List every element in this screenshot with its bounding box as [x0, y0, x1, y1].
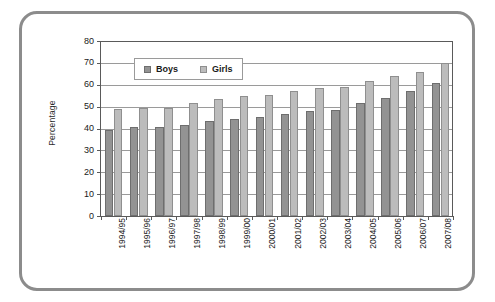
bar-chart: Percentage 01020304050607080 1994/951995…	[22, 14, 478, 294]
chart-legend: Boys Girls	[134, 58, 243, 80]
bar-boys	[130, 127, 139, 216]
bar-boys	[331, 110, 340, 216]
bar-boys	[180, 125, 189, 216]
bar-girls	[390, 76, 399, 216]
x-tick-label: 2000/01	[267, 218, 277, 278]
y-tick-label: 10	[72, 190, 94, 199]
plot-right-edge	[452, 41, 453, 216]
bar-boys	[406, 91, 415, 216]
x-tick-label: 2007/08	[443, 218, 453, 278]
bar-boys	[105, 130, 114, 216]
bar-girls	[164, 108, 173, 216]
y-axis-title: Percentage	[47, 73, 57, 173]
bar-girls	[365, 81, 374, 216]
x-tick-label: 1997/98	[192, 218, 202, 278]
bar-girls	[265, 95, 274, 216]
bar-girls	[214, 99, 223, 216]
bar-boys	[432, 83, 441, 216]
bar-girls	[240, 96, 249, 216]
figure-frame: Percentage 01020304050607080 1994/951995…	[19, 11, 475, 291]
x-tick-label: 1996/97	[167, 218, 177, 278]
y-tick-label: 70	[72, 58, 94, 67]
y-tick-label: 30	[72, 146, 94, 155]
bar-boys	[230, 119, 239, 216]
bar-boys	[205, 121, 214, 216]
x-tick-mark	[453, 216, 454, 220]
legend-label-boys: Boys	[156, 64, 178, 74]
x-tick-label: 1998/99	[217, 218, 227, 278]
x-tick-label: 1995/96	[142, 218, 152, 278]
bar-girls	[189, 103, 198, 216]
bar-girls	[315, 88, 324, 216]
x-tick-label: 1999/00	[242, 218, 252, 278]
y-tick-label: 80	[72, 37, 94, 46]
bar-girls	[290, 91, 299, 216]
legend-label-girls: Girls	[212, 64, 233, 74]
bar-girls	[139, 108, 148, 216]
x-tick-label: 2004/05	[368, 218, 378, 278]
bar-girls	[340, 87, 349, 216]
y-tick-label: 0	[72, 212, 94, 221]
legend-entry-girls: Girls	[200, 64, 233, 74]
bar-girls	[416, 72, 425, 216]
bar-boys	[356, 103, 365, 216]
bar-boys	[281, 114, 290, 216]
bar-girls	[114, 109, 123, 216]
x-tick-label: 1994/95	[117, 218, 127, 278]
x-axis-tick-labels: 1994/951995/961996/971997/981998/991999/…	[100, 220, 452, 290]
y-tick-label: 50	[72, 102, 94, 111]
y-tick-label: 20	[72, 168, 94, 177]
bar-boys	[256, 117, 265, 216]
bar-girls	[441, 63, 450, 216]
x-tick-label: 2006/07	[418, 218, 428, 278]
x-tick-label: 2001/02	[293, 218, 303, 278]
y-tick-label: 40	[72, 124, 94, 133]
y-tick-label: 60	[72, 80, 94, 89]
bar-boys	[306, 111, 315, 216]
legend-swatch-boys-icon	[144, 66, 151, 73]
bar-boys	[155, 127, 164, 216]
bar-boys	[381, 98, 390, 216]
x-tick-label: 2003/04	[343, 218, 353, 278]
x-tick-label: 2005/06	[393, 218, 403, 278]
x-tick-label: 2002/03	[318, 218, 328, 278]
legend-swatch-girls-icon	[200, 66, 207, 73]
legend-entry-boys: Boys	[144, 64, 178, 74]
